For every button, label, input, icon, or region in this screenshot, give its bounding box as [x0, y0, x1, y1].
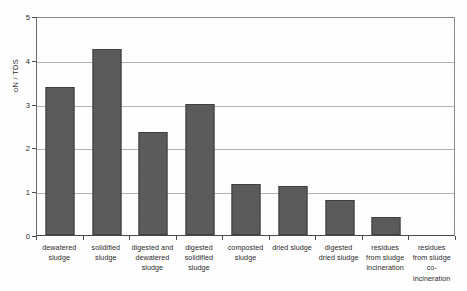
x-axis-label-line: incineration: [413, 274, 450, 283]
x-axis-label-line: dried sludge: [319, 253, 359, 262]
x-axis-tick-mark: [36, 236, 37, 240]
bar-series: [37, 18, 454, 235]
x-axis-label-line: digested and: [132, 243, 174, 252]
x-axis-label-line: solidified: [92, 243, 120, 252]
x-axis-tick-mark: [455, 236, 456, 240]
x-axis-category-label: residuesfrom sludgeco-incineration: [408, 243, 455, 284]
plot-area: [36, 17, 455, 236]
bar-slot: [84, 18, 131, 235]
x-axis-label-line: composted: [228, 243, 264, 252]
bar-slot: [409, 18, 456, 235]
x-axis-tick-mark: [129, 236, 130, 240]
x-axis-category-label: digestedsolidifiedsludge: [176, 243, 223, 274]
bar-slot: [270, 18, 317, 235]
bar-slot: [316, 18, 363, 235]
x-axis-tick-mark: [222, 236, 223, 240]
bar[interactable]: [372, 217, 401, 235]
x-axis-label-line: dewatered: [42, 243, 76, 252]
x-axis-tick-mark: [408, 236, 409, 240]
bar[interactable]: [92, 49, 121, 235]
y-axis-tick-mark: [32, 61, 36, 62]
x-axis-category-label: solidifiedsludge: [83, 243, 130, 263]
x-axis-label-line: sludge: [188, 263, 209, 272]
bar[interactable]: [139, 132, 168, 235]
y-axis-tick-label: 1: [16, 188, 30, 197]
y-axis-tick-label: 0: [16, 232, 30, 241]
x-axis: dewateredsludgesolidifiedsludgedigested …: [36, 236, 455, 291]
x-axis-label-line: solidified: [185, 253, 213, 262]
x-axis-label-line: incineration: [366, 263, 403, 272]
bar-slot: [130, 18, 177, 235]
x-axis-label-line: sludge: [235, 253, 256, 262]
x-axis-label-line: digested: [325, 243, 353, 252]
x-axis-category-label: digested anddewateredsludge: [129, 243, 176, 274]
x-axis-category-label: dried sludge: [269, 243, 316, 253]
y-axis-tick-mark: [32, 105, 36, 106]
bar[interactable]: [325, 200, 354, 235]
x-axis-label-line: from sludge: [413, 253, 451, 262]
x-axis-tick-mark: [315, 236, 316, 240]
y-axis-tick-mark: [32, 192, 36, 193]
bar[interactable]: [46, 87, 75, 235]
bar[interactable]: [279, 186, 308, 235]
bar-slot: [223, 18, 270, 235]
x-axis-category-label: compostedsludge: [222, 243, 269, 263]
x-axis-category-label: residuesfrom sludgeincineration: [362, 243, 409, 274]
y-axis-tick-label: 4: [16, 57, 30, 66]
x-axis-label-line: dried sludge: [272, 243, 312, 252]
x-axis-category-label: dewateredsludge: [36, 243, 83, 263]
x-axis-tick-mark: [83, 236, 84, 240]
x-axis-label-line: digested: [185, 243, 213, 252]
x-axis-label-line: dewatered: [135, 253, 169, 262]
x-axis-label-line: from sludge: [366, 253, 404, 262]
y-axis-tick-label: 5: [16, 13, 30, 22]
x-axis-label-line: residues: [418, 243, 446, 252]
y-axis-tick-label: 2: [16, 144, 30, 153]
x-axis-label-line: co-: [427, 263, 437, 272]
y-axis-tick-mark: [32, 148, 36, 149]
x-axis-label-line: sludge: [142, 263, 163, 272]
bar-slot: [363, 18, 410, 235]
x-axis-tick-mark: [176, 236, 177, 240]
x-axis-tick-mark: [362, 236, 363, 240]
x-axis-tick-mark: [269, 236, 270, 240]
x-axis-label-line: sludge: [95, 253, 116, 262]
bar[interactable]: [185, 104, 214, 235]
bar-slot: [37, 18, 84, 235]
bar-slot: [177, 18, 224, 235]
x-axis-label-line: sludge: [49, 253, 70, 262]
y-axis-tick-mark: [32, 17, 36, 18]
x-axis-label-line: residues: [371, 243, 399, 252]
bar[interactable]: [232, 184, 261, 235]
y-axis-tick-label: 3: [16, 101, 30, 110]
x-axis-category-label: digesteddried sludge: [315, 243, 362, 263]
bar-chart-figure: oN / TDS 012345 dewateredsludgesolidifie…: [0, 0, 467, 291]
